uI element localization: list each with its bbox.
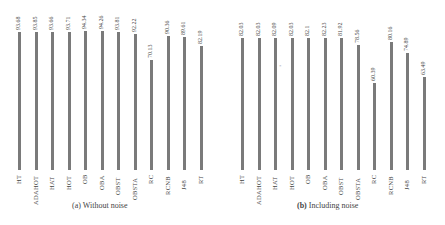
stray-mark: * xyxy=(279,64,282,69)
category-label: J48 xyxy=(403,180,410,190)
value-label: 78.56 xyxy=(354,30,360,44)
bar-rc xyxy=(373,83,376,170)
chart-including-noise: 82.03HT82.03ADAHOT82.09HAT82.03HOT82.1OB… xyxy=(0,0,445,225)
caption-b-prefix: (b) xyxy=(297,201,307,210)
bar-rcnb xyxy=(390,42,393,170)
category-label: RCNB xyxy=(387,176,394,195)
caption-a-text: Without noise xyxy=(83,201,128,210)
value-label: 82.23 xyxy=(321,22,327,36)
category-label: RT xyxy=(420,176,427,185)
bar-ob xyxy=(307,38,310,170)
category-label: OBSTA xyxy=(354,178,361,200)
value-label: 82.03 xyxy=(255,23,261,37)
bar-j48 xyxy=(406,53,409,170)
value-label: 74.89 xyxy=(403,37,409,51)
value-label: 82.03 xyxy=(288,23,294,37)
bar-rt xyxy=(423,77,426,170)
value-label: 60.39 xyxy=(370,68,376,82)
category-label: HT xyxy=(238,175,245,184)
bar-hot xyxy=(291,38,294,170)
category-label: OBST xyxy=(337,177,344,195)
category-label: RC xyxy=(370,175,377,184)
caption-a: (a) Without noise xyxy=(72,201,128,210)
value-label: 81.92 xyxy=(337,23,343,37)
category-label: ADAHOT xyxy=(255,176,262,205)
value-label: 63.49 xyxy=(420,61,426,75)
caption-b: (b) Including noise xyxy=(297,201,358,210)
bar-obst xyxy=(340,38,343,170)
bar-hat xyxy=(274,38,277,170)
value-label: 80.16 xyxy=(387,26,393,40)
bar-ht xyxy=(241,38,244,170)
caption-b-text: Including noise xyxy=(309,201,359,210)
bar-oba xyxy=(324,38,327,170)
category-label: HAT xyxy=(271,176,278,190)
value-label: 82.09 xyxy=(271,22,277,36)
value-label: 82.03 xyxy=(238,23,244,37)
value-label: 82.1 xyxy=(304,25,310,36)
category-label: HOT xyxy=(288,175,295,189)
category-label: OBA xyxy=(321,175,328,190)
bar-adahot xyxy=(258,38,261,170)
bar-obsta xyxy=(357,45,360,170)
caption-a-prefix: (a) xyxy=(72,201,81,210)
category-label: OB xyxy=(304,175,311,185)
